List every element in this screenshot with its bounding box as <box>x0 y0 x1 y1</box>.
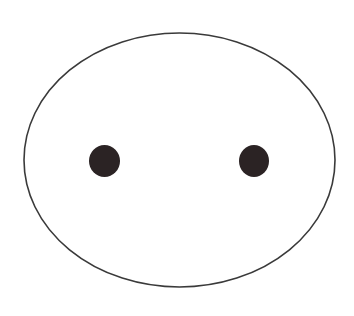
diagram-svg <box>0 0 354 316</box>
right-dot <box>239 145 269 177</box>
diagram-canvas <box>0 0 354 316</box>
left-dot <box>89 145 120 177</box>
outer-ellipse <box>24 33 335 287</box>
